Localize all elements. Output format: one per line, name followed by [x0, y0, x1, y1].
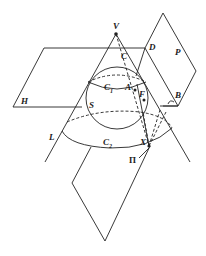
- label-a: A: [125, 83, 131, 92]
- right-angle-mark: [168, 101, 174, 104]
- label-b: B: [175, 91, 181, 100]
- plane-p-inner-edge: [145, 48, 178, 106]
- circle-c2-back: [67, 111, 172, 128]
- label-s: S: [89, 101, 94, 110]
- label-c2: C2: [103, 138, 112, 149]
- label-p: P: [175, 48, 181, 57]
- pi-pointer: [139, 148, 149, 158]
- circle-c2-front: [62, 128, 172, 148]
- label-x: X: [140, 138, 146, 147]
- diagram-canvas: V C D P H C1 A F B S L C2 X Π: [0, 0, 206, 256]
- label-v: V: [113, 22, 119, 31]
- label-d: D: [149, 43, 156, 52]
- point-a: [134, 89, 137, 92]
- label-f: F: [139, 90, 145, 99]
- label-l: L: [49, 133, 55, 142]
- label-c1: C1: [104, 83, 113, 94]
- label-pi: Π: [129, 156, 136, 165]
- label-c: C: [121, 52, 127, 61]
- point-x: [147, 144, 150, 147]
- geometry-figure: [0, 0, 206, 256]
- plane-pi: [72, 146, 150, 241]
- label-h: H: [21, 97, 28, 106]
- circle-c1-back: [88, 75, 146, 82]
- point-v: [114, 32, 118, 36]
